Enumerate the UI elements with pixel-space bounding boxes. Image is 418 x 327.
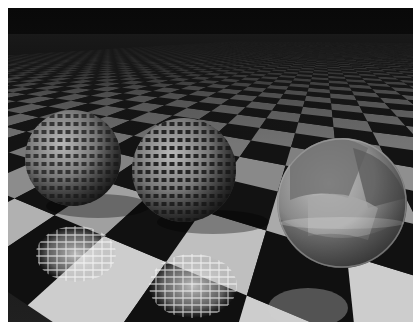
raytraced-scene (8, 8, 413, 322)
render-image: Ray-traced grayscale render: two perfora… (8, 8, 413, 322)
reflection-left-sphere (36, 226, 116, 282)
perforated-sphere-middle (132, 118, 236, 222)
perforated-sphere-left (25, 110, 121, 206)
reflection-middle-sphere (149, 254, 237, 318)
